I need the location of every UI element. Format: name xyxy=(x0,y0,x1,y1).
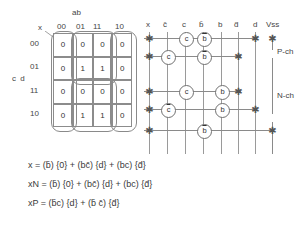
equation-x-lhs: x xyxy=(28,160,33,170)
kmap-cell-r1c1: 1 xyxy=(73,57,93,81)
sch-transistor-label: c xyxy=(185,35,189,43)
kmap-row-header-0: 00 xyxy=(30,39,39,48)
equation-xp-rhs: = (b̄c) {d} + (b̄ c̄) {d̄} xyxy=(41,198,120,208)
sch-vss-rail-mid xyxy=(272,58,273,114)
cmos-transistor-grid-schematic: x c̄ c b̄ b d̄ d Vss ✱ ✱ ✱ ✱ ✱ ✱ ✱ ✱ ✱ ✱… xyxy=(148,20,296,155)
sch-col-header-b: b xyxy=(218,20,222,29)
sch-transistor-r3c2: c xyxy=(179,85,194,100)
kmap-col-header-2: 11 xyxy=(93,22,101,31)
sch-transistor-label: c xyxy=(167,106,171,114)
kmap-cell-r0c0: 0 xyxy=(53,33,73,57)
sch-col-header-dbar: d̄ xyxy=(234,20,238,29)
kmap-corner-label: x xyxy=(38,23,42,32)
kmap-col-header-1: 01 xyxy=(76,22,85,31)
sch-transistor-label: b xyxy=(202,35,206,43)
kmap-cell-r3c0: 0 xyxy=(53,104,73,128)
kmap-side-variable-label: c d xyxy=(12,74,26,83)
kmap-cell-r2c2: 0 xyxy=(93,80,113,104)
sch-transistor-r1c2: c xyxy=(179,32,194,47)
kmap-cell-grid: 0 0 0 0 0 1 1 0 0 0 0 0 0 1 1 0 xyxy=(53,33,132,127)
sch-junction-r2-dbar: ✱ xyxy=(234,52,243,61)
sch-transistor-r5c3: b xyxy=(197,124,212,139)
sch-junction-r1-d: ✱ xyxy=(251,34,260,43)
sch-region-label-pch: P-ch xyxy=(277,47,293,56)
sch-col-header-d: d xyxy=(253,20,257,29)
sch-transistor-label: c xyxy=(167,53,171,61)
sch-junction-r3-dbar: ✱ xyxy=(234,87,243,96)
sch-transistor-r4c4: b xyxy=(215,103,230,118)
sch-junction-r3-x: ✱ xyxy=(145,87,154,96)
kmap-row-header-2: 11 xyxy=(30,86,38,95)
kmap-cell-r0c1: 0 xyxy=(73,33,93,57)
kmap-col-header-3: 10 xyxy=(115,22,124,31)
kmap-cell-r3c3: 0 xyxy=(112,104,132,128)
kmap-cell-r2c1: 0 xyxy=(73,80,93,104)
sch-col-header-vss: Vss xyxy=(266,20,279,29)
sch-transistor-label: b xyxy=(202,127,206,135)
sch-transistor-r2c1: c xyxy=(161,50,176,65)
sch-transistor-label: b xyxy=(202,53,206,61)
sch-vline-d xyxy=(255,32,256,154)
sch-junction-r5-x: ✱ xyxy=(145,126,154,135)
sch-col-header-bbar: b̄ xyxy=(199,20,203,29)
equation-xn-rhs: = (b̄) {0} + (bc̄) {d} + (bc) {d̄} xyxy=(42,179,153,189)
equation-x-rhs: = (b̄) {0} + (bc̄) {d} + (bc) {d̄} xyxy=(35,160,146,170)
boolean-equations: x = (b̄) {0} + (bc̄) {d} + (bc) {d̄} xN … xyxy=(28,160,278,216)
equation-xn-lhs: xN xyxy=(28,179,39,189)
sch-col-header-c: c xyxy=(182,20,186,29)
sch-transistor-r2c3: b xyxy=(197,50,212,65)
kmap-cell-r2c0: 0 xyxy=(53,80,73,104)
kmap-cell-r1c0: 0 xyxy=(53,57,73,81)
kmap-row-header-3: 10 xyxy=(30,109,39,118)
equation-xn: xN = (b̄) {0} + (bc̄) {d} + (bc) {d̄} xyxy=(28,179,278,190)
sch-transistor-label: c xyxy=(185,88,189,96)
sch-junction-r2-x: ✱ xyxy=(145,52,154,61)
kmap-cell-r0c2: 0 xyxy=(93,33,113,57)
sch-transistor-r4c1: c xyxy=(161,103,176,118)
sch-region-label-nch: N-ch xyxy=(277,91,294,100)
sch-transistor-label: b xyxy=(220,106,224,114)
kmap-cell-r0c3: 0 xyxy=(112,33,132,57)
sch-hline-row2 xyxy=(144,56,241,57)
equation-xp-lhs: xP xyxy=(28,198,38,208)
karnaugh-map: ab x c d 00 01 11 10 00 01 11 10 0 0 0 0… xyxy=(12,8,132,148)
kmap-cell-r1c2: 1 xyxy=(93,57,113,81)
kmap-cell-r1c3: 0 xyxy=(112,57,132,81)
kmap-cell-r2c3: 0 xyxy=(112,80,132,104)
sch-junction-vss-top: ✱ xyxy=(268,34,277,43)
kmap-row-header-1: 01 xyxy=(30,62,39,71)
sch-junction-r1-x: ✱ xyxy=(145,34,154,43)
kmap-col-header-0: 00 xyxy=(57,22,66,31)
sch-transistor-label: b xyxy=(220,88,224,96)
sch-junction-r4-d: ✱ xyxy=(251,105,260,114)
sch-transistor-r3c4: b xyxy=(215,85,230,100)
kmap-top-variable-label: ab xyxy=(72,8,81,17)
kmap-cell-r3c1: 1 xyxy=(73,104,93,128)
sch-junction-r4-x: ✱ xyxy=(145,105,154,114)
sch-transistor-r1c3: b xyxy=(197,32,212,47)
equation-xp: xP = (b̄c) {d} + (b̄ c̄) {d̄} xyxy=(28,198,278,209)
sch-col-header-cbar: c̄ xyxy=(163,20,167,29)
sch-col-header-x: x xyxy=(146,20,150,29)
kmap-cell-r3c2: 1 xyxy=(93,104,113,128)
equation-x: x = (b̄) {0} + (bc̄) {d} + (bc) {d̄} xyxy=(28,160,278,171)
sch-junction-r5-vss: ✱ xyxy=(268,126,277,135)
